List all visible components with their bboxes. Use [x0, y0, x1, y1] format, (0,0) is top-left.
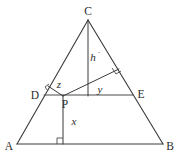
vertex-label-A: A — [5, 140, 14, 152]
vertex-label-D: D — [31, 89, 39, 101]
perpendicular-P-to-CB — [63, 69, 119, 96]
side-CB — [88, 20, 163, 144]
vertex-label-B: B — [166, 140, 174, 152]
vertex-label-C: C — [84, 5, 92, 17]
geometry-canvas: C A B D E P h · y z x — [0, 0, 178, 166]
right-angle-mark-ab — [57, 138, 63, 144]
measure-superscript-h: · — [98, 48, 101, 57]
measure-label-y: y — [97, 83, 103, 95]
measure-label-z: z — [56, 78, 62, 90]
side-AC — [17, 20, 88, 144]
vertex-label-P: P — [62, 98, 68, 110]
geometry-diagram: C A B D E P h · y z x — [0, 0, 178, 166]
measure-label-h: h — [90, 51, 96, 63]
measure-label-x: x — [71, 115, 77, 127]
vertex-label-E: E — [137, 88, 144, 100]
